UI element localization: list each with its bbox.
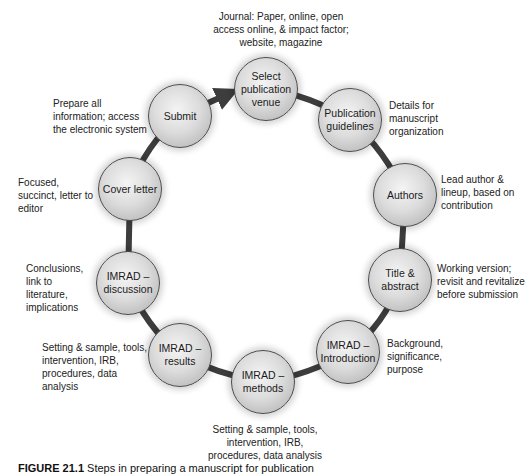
node-label: Cover letter [103,183,157,196]
figure-number: FIGURE 21.1 [18,462,84,474]
node-label: Submit [164,110,197,123]
desc-publication-guidelines: Details for manuscript organization [389,99,469,138]
node-label: Authors [387,189,423,202]
desc-imrad-results: Setting & sample, tools, intervention, I… [42,341,150,393]
node-imrad-discussion: IMRAD – discussion [96,251,160,315]
node-submit: Submit [148,84,212,148]
node-imrad-methods: IMRAD – methods [231,350,295,414]
node-label: IMRAD – methods [234,369,292,395]
desc-select-venue: Journal: Paper, online, open access onli… [206,10,356,49]
node-imrad-results: IMRAD – results [148,323,212,387]
figure-caption-text: Steps in preparing a manuscript for publ… [87,462,314,474]
desc-imrad-methods: Setting & sample, tools, intervention, I… [200,423,330,462]
node-select-venue: Select publication venue [234,57,298,121]
desc-submit: Prepare all information; access the elec… [53,97,148,136]
node-label: IMRAD – results [151,342,209,368]
node-label: IMRAD – Introduction [319,339,377,365]
desc-authors: Lead author & lineup, based on contribut… [441,173,526,212]
node-cover-letter: Cover letter [98,157,162,221]
desc-imrad-introduction: Background, significance, purpose [387,337,459,376]
desc-imrad-discussion: Conclusions, link to literature, implica… [26,262,96,314]
desc-cover-letter: Focused, succinct, letter to editor [18,176,100,215]
figure-caption: FIGURE 21.1 Steps in preparing a manuscr… [18,462,314,474]
node-title-abstract: Title & abstract [368,248,432,312]
node-imrad-introduction: IMRAD – Introduction [316,320,380,384]
node-authors: Authors [373,163,437,227]
node-label: IMRAD – discussion [99,270,157,296]
node-label: Publication guidelines [321,107,379,133]
node-publication-guidelines: Publication guidelines [318,88,382,152]
desc-title-abstract: Working version; revisit and revitalize … [437,262,529,301]
node-label: Title & abstract [371,267,429,293]
node-label: Select publication venue [237,70,295,109]
